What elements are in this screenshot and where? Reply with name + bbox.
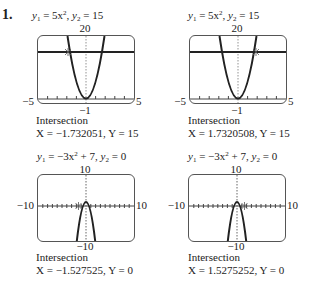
xmax-label: 10 (136, 199, 147, 211)
caption-result: X = −1.527525, Y = 0 (36, 264, 133, 277)
caption-result: X = 1.5275252, Y = 0 (188, 264, 284, 277)
calculator-screen (189, 35, 287, 104)
xmax-label: 5 (288, 95, 294, 107)
graph-panel-4: y1 = −3x2 + 7, y2 = 0 10 −10 10 −10 Inte… (155, 141, 305, 281)
caption-title: Intersection (36, 114, 138, 127)
xmin-label: −10 (159, 199, 185, 211)
calculator-screen (37, 174, 135, 242)
calculator-screen (188, 174, 286, 242)
parabola-plot (38, 36, 134, 103)
caption-title: Intersection (36, 251, 133, 264)
graph-panel-2: y1 = 5x2, y2 = 15 20 −5 5 −1 Intersectio… (155, 0, 305, 140)
equation-label: y1 = 5x2, y2 = 15 (32, 9, 103, 23)
caption-title: Intersection (188, 114, 290, 127)
caption-result: X = 1.7320508, Y = 15 (188, 127, 290, 140)
ymax-label: 20 (222, 22, 252, 34)
equation-label: y1 = −3x2 + 7, y2 = 0 (37, 150, 126, 164)
caption: Intersection X = 1.7320508, Y = 15 (188, 114, 290, 140)
caption-result: X = −1.732051, Y = 15 (36, 127, 138, 140)
xmin-label: −10 (8, 199, 34, 211)
xmin-label: −5 (160, 95, 186, 107)
caption: Intersection X = −1.732051, Y = 15 (36, 114, 138, 140)
parabola-plot (189, 175, 285, 241)
caption: Intersection X = 1.5275252, Y = 0 (188, 251, 284, 277)
caption-title: Intersection (188, 251, 284, 264)
caption: Intersection X = −1.527525, Y = 0 (36, 251, 133, 277)
parabola-plot (38, 175, 134, 241)
graph-panel-1: y1 = 5x2, y2 = 15 20 −5 5 −1 Intersectio… (0, 0, 150, 140)
equation-label: y1 = 5x2, y2 = 15 (188, 9, 259, 23)
equation-label: y1 = −3x2 + 7, y2 = 0 (188, 150, 277, 164)
xmax-label: 10 (287, 199, 298, 211)
calculator-screen (37, 35, 135, 104)
ymax-label: 20 (70, 22, 100, 34)
xmax-label: 5 (136, 95, 142, 107)
parabola-plot (190, 36, 286, 103)
graph-panel-3: y1 = −3x2 + 7, y2 = 0 10 −10 10 −10 Inte… (0, 141, 150, 281)
xmin-label: −5 (8, 95, 34, 107)
